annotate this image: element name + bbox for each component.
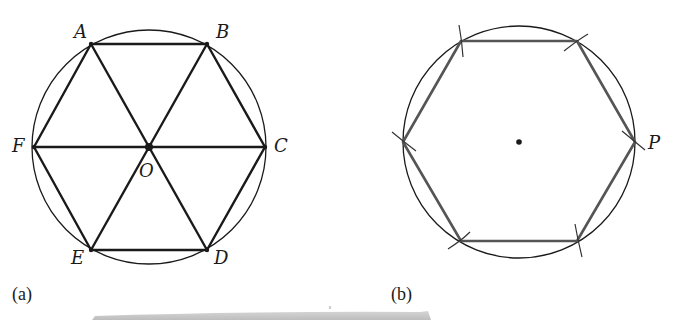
page-fold-shadow: [92, 306, 431, 320]
label-o: O: [139, 160, 154, 181]
center-point-b: [516, 139, 522, 145]
caption-b: (b): [391, 284, 412, 305]
arc-mark-left: [392, 132, 416, 151]
label-e: E: [70, 247, 84, 268]
label-c: C: [274, 135, 288, 156]
caption-a: (a): [12, 284, 32, 305]
figure-b: P (b): [391, 25, 661, 305]
label-d: D: [213, 247, 229, 268]
figure-a: A B C D E F O (a): [11, 21, 288, 305]
label-a: A: [72, 21, 87, 42]
label-b: B: [215, 21, 229, 42]
label-p: P: [647, 132, 661, 153]
label-f: F: [11, 135, 26, 156]
center-point-o: [145, 143, 153, 151]
arc-mark-right-p: [622, 131, 645, 150]
hexagon-construction-figure: A B C D E F O (a) P (b): [0, 0, 678, 320]
